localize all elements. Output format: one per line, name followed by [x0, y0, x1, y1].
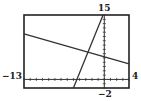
y-min-label: −2: [98, 90, 112, 99]
x-min-label: −13: [2, 72, 22, 81]
x-max-label: 4: [132, 72, 138, 81]
series-lines: [24, 15, 129, 88]
series-line-1: [73, 15, 103, 88]
series-line-0: [24, 34, 129, 64]
axes: [24, 15, 129, 88]
y-max-label: 15: [98, 4, 111, 13]
plot-frame: [24, 15, 129, 88]
graph-window: [0, 0, 141, 101]
